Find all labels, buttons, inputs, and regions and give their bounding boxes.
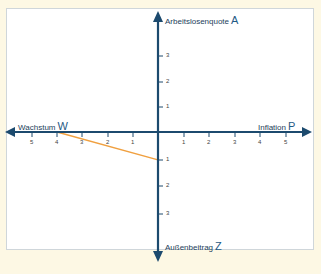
- arrow-right-icon: [302, 127, 312, 137]
- tick-label: 1: [131, 139, 134, 145]
- arrow-down-icon: [153, 251, 163, 262]
- tick-label: 5: [284, 139, 287, 145]
- tick-label: 1: [166, 103, 169, 109]
- tick-label: 2: [166, 78, 169, 84]
- tick-label: 4: [258, 139, 261, 145]
- tick-label: 3: [166, 52, 169, 58]
- tick-label: 3: [80, 139, 83, 145]
- axes-svg: [0, 0, 321, 274]
- axis-label-left: WachstumW: [18, 120, 68, 132]
- tick-label: 1: [166, 156, 169, 162]
- arrow-left-icon: [5, 127, 15, 137]
- tick-label: 4: [55, 139, 58, 145]
- axis-label-right: InflationP: [258, 120, 295, 132]
- tick-label: 3: [166, 210, 169, 216]
- axis-label-bottom: AußenbeitragZ: [165, 240, 222, 252]
- tick-label: 5: [30, 139, 33, 145]
- axis-label-top: ArbeitslosenquoteA: [165, 14, 238, 26]
- tick-label: 3: [233, 139, 236, 145]
- tick-label: 2: [166, 182, 169, 188]
- tick-label: 2: [207, 139, 210, 145]
- tick-label: 1: [182, 139, 185, 145]
- arrow-up-icon: [153, 11, 163, 22]
- tick-label: 2: [106, 139, 109, 145]
